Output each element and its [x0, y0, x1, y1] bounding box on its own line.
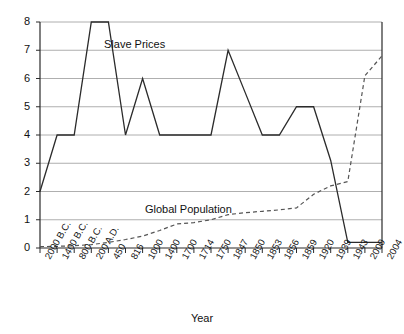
- y-tick-label: 8: [8, 16, 30, 27]
- chart-figure: 876543210 2000 B.C.1400 B.C.800 B.C.200 …: [0, 0, 404, 334]
- y-tick-label: 3: [8, 157, 30, 168]
- series-line-global-population: [40, 56, 382, 247]
- y-tick-label: 0: [8, 242, 30, 253]
- annotation-slave-prices: Slave Prices: [104, 38, 165, 50]
- y-tick-label: 7: [8, 44, 30, 55]
- gridlines: [40, 22, 382, 220]
- chart-plot-area: [0, 0, 404, 334]
- y-tick-label: 6: [8, 73, 30, 84]
- y-tick-label: 2: [8, 186, 30, 197]
- annotation-global-population: Global Population: [145, 203, 232, 215]
- y-tick-label: 4: [8, 129, 30, 140]
- x-axis-title: Year: [0, 312, 404, 324]
- y-tick-label: 1: [8, 214, 30, 225]
- y-tick-label: 5: [8, 101, 30, 112]
